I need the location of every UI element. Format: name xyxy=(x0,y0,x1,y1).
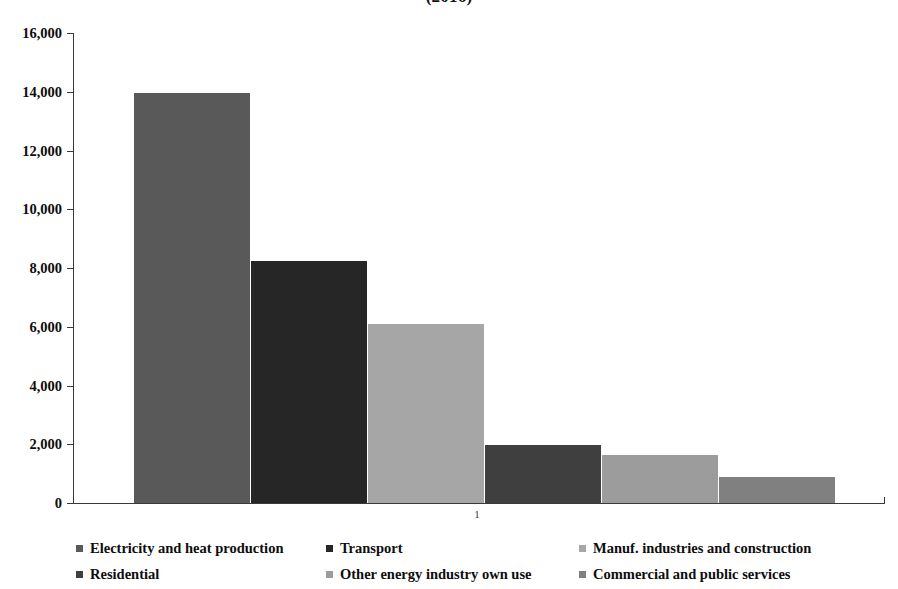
x-axis-line xyxy=(73,503,885,504)
legend-item[interactable]: Transport xyxy=(326,541,579,556)
bar-electricity-and-heat-production[interactable] xyxy=(134,93,250,503)
legend-swatch-icon xyxy=(579,545,586,552)
legend-item-label: Commercial and public services xyxy=(593,567,790,582)
bar-commercial-and-public-services[interactable] xyxy=(719,477,835,503)
x-axis-category-label: 1 xyxy=(455,508,499,520)
legend-swatch-icon xyxy=(579,571,586,578)
legend-item-label: Transport xyxy=(340,541,403,556)
legend-item-label: Residential xyxy=(90,567,159,582)
legend-item[interactable]: Manuf. industries and construction xyxy=(579,541,886,556)
legend-swatch-icon xyxy=(76,545,83,552)
chart-legend: Electricity and heat productionTransport… xyxy=(76,535,886,587)
legend-item-label: Manuf. industries and construction xyxy=(593,541,811,556)
plot-area: 02,0004,0006,0008,00010,00012,00014,0001… xyxy=(0,0,898,520)
legend-item[interactable]: Other energy industry own use xyxy=(326,567,579,582)
legend-swatch-icon xyxy=(326,545,333,552)
bar-manuf-industries-and-construction[interactable] xyxy=(368,324,484,503)
bar-residential[interactable] xyxy=(485,445,601,503)
bars-layer xyxy=(0,0,898,503)
bar-other-energy-industry-own-use[interactable] xyxy=(602,455,718,503)
y-axis-tick xyxy=(67,503,74,504)
legend-swatch-icon xyxy=(76,571,83,578)
legend-item[interactable]: Electricity and heat production xyxy=(76,541,326,556)
legend-swatch-icon xyxy=(326,571,333,578)
legend-item-label: Electricity and heat production xyxy=(90,541,283,556)
legend-item[interactable]: Commercial and public services xyxy=(579,567,886,582)
legend-item[interactable]: Residential xyxy=(76,567,326,582)
legend-item-label: Other energy industry own use xyxy=(340,567,531,582)
bar-transport[interactable] xyxy=(251,261,367,503)
